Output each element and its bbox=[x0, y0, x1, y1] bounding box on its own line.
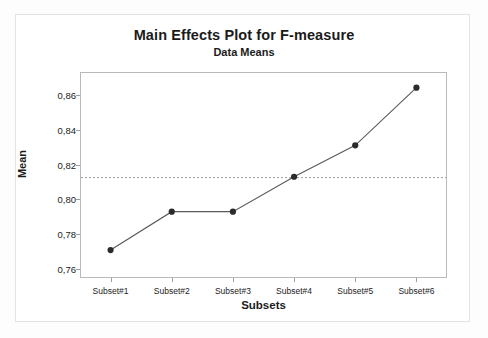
data-point-marker bbox=[169, 209, 175, 215]
y-axis-tick-label: 0,86 bbox=[46, 89, 76, 100]
figure-canvas: Main Effects Plot for F-measure Data Mea… bbox=[0, 0, 488, 338]
y-axis-tick-label: 0,80 bbox=[46, 194, 76, 205]
y-axis-tick-mark bbox=[76, 199, 80, 200]
x-axis-tick-mark bbox=[172, 278, 173, 282]
plot-area bbox=[80, 72, 447, 278]
y-axis-tick-label: 0,84 bbox=[46, 124, 76, 135]
y-axis-tick-mark bbox=[76, 165, 80, 166]
data-point-marker bbox=[413, 85, 419, 91]
x-axis-tick-mark bbox=[355, 278, 356, 282]
x-axis-tick-mark bbox=[416, 278, 417, 282]
plot-inner bbox=[81, 73, 446, 277]
series-line bbox=[111, 88, 417, 250]
x-axis-tick-mark bbox=[233, 278, 234, 282]
y-axis-title: Mean bbox=[16, 134, 28, 194]
series-line-chart bbox=[81, 73, 446, 277]
y-axis-tick-mark bbox=[76, 130, 80, 131]
y-axis-tick-label: 0,78 bbox=[46, 229, 76, 240]
y-axis-tick-mark bbox=[76, 234, 80, 235]
y-axis-tick-label: 0,82 bbox=[46, 159, 76, 170]
x-axis-tick-mark bbox=[294, 278, 295, 282]
data-point-marker bbox=[352, 142, 358, 148]
y-axis-tick-mark bbox=[76, 269, 80, 270]
y-axis-tick-mark bbox=[76, 95, 80, 96]
data-point-marker bbox=[291, 174, 297, 180]
data-point-marker bbox=[230, 209, 236, 215]
x-axis-tick-mark bbox=[111, 278, 112, 282]
data-point-marker bbox=[107, 247, 113, 253]
x-axis-title: Subsets bbox=[80, 299, 447, 311]
y-axis-tick-label: 0,76 bbox=[46, 264, 76, 275]
x-axis-tick-label: Subset#6 bbox=[376, 286, 456, 296]
